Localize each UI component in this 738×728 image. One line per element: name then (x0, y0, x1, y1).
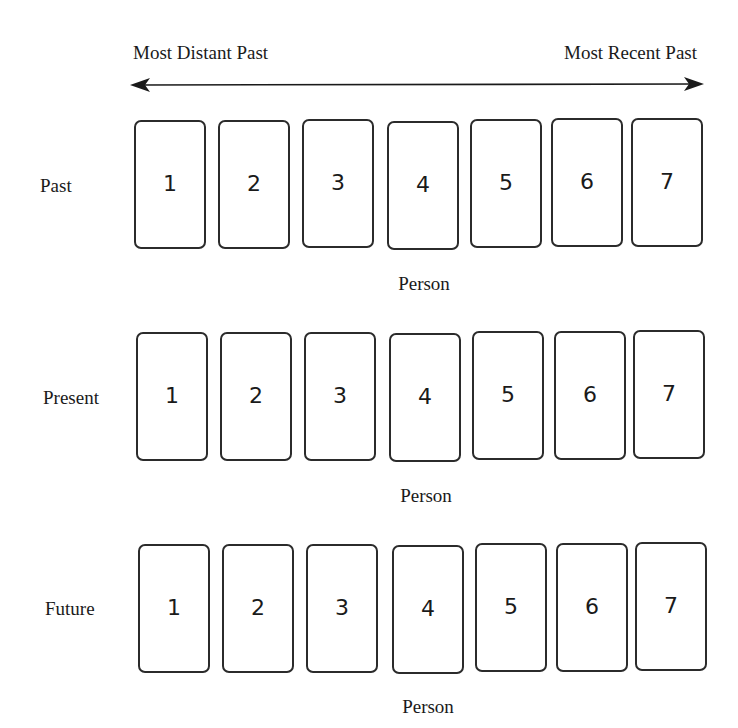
card-number: 2 (224, 596, 292, 620)
row-label-future: Future (45, 598, 95, 620)
card-7: 7 (633, 330, 705, 459)
axis-label-most-recent-past: Most Recent Past (564, 42, 697, 64)
card-number: 2 (220, 172, 288, 196)
card-number: 5 (477, 595, 545, 619)
card-1: 1 (138, 544, 210, 673)
card-number: 6 (556, 383, 624, 407)
card-number: 7 (633, 170, 701, 194)
card-number: 5 (472, 171, 540, 195)
card-number: 1 (138, 384, 206, 408)
card-3: 3 (304, 332, 376, 461)
double-headed-arrow-icon (128, 76, 706, 94)
card-4: 4 (389, 333, 461, 462)
card-number: 4 (394, 597, 462, 621)
card-2: 2 (222, 544, 294, 673)
card-4: 4 (387, 121, 459, 250)
card-4: 4 (392, 545, 464, 674)
card-2: 2 (218, 120, 290, 249)
card-number: 1 (140, 596, 208, 620)
card-3: 3 (302, 119, 374, 248)
card-5: 5 (470, 119, 542, 248)
card-5: 5 (472, 331, 544, 460)
card-number: 5 (474, 383, 542, 407)
x-axis-label-person: Person (400, 485, 452, 507)
card-7: 7 (635, 542, 707, 671)
axis-label-most-distant-past: Most Distant Past (133, 42, 268, 64)
card-6: 6 (556, 543, 628, 672)
card-number: 1 (136, 172, 204, 196)
card-number: 3 (306, 384, 374, 408)
card-1: 1 (134, 120, 206, 249)
x-axis-label-person: Person (402, 696, 454, 718)
card-6: 6 (554, 331, 626, 460)
card-3: 3 (306, 544, 378, 673)
card-5: 5 (475, 543, 547, 672)
card-number: 2 (222, 384, 290, 408)
card-7: 7 (631, 118, 703, 247)
card-number: 6 (558, 595, 626, 619)
x-axis-label-person: Person (398, 273, 450, 295)
card-number: 7 (635, 382, 703, 406)
card-number: 4 (389, 173, 457, 197)
card-1: 1 (136, 332, 208, 461)
row-label-present: Present (43, 387, 99, 409)
row-label-past: Past (40, 175, 72, 197)
card-2: 2 (220, 332, 292, 461)
card-number: 7 (637, 594, 705, 618)
card-number: 3 (304, 171, 372, 195)
card-number: 6 (553, 170, 621, 194)
card-number: 3 (308, 596, 376, 620)
card-6: 6 (551, 118, 623, 247)
card-number: 4 (391, 385, 459, 409)
